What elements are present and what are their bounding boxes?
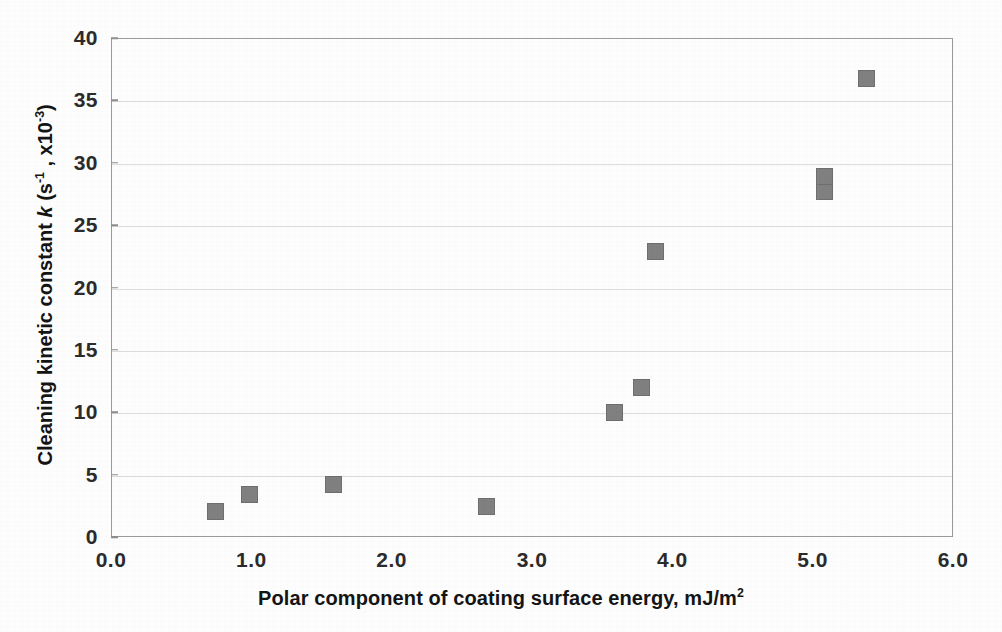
y-axis-title-units-close: ) [34,104,56,111]
y-axis-tick-mark [111,224,118,226]
y-axis-title-units-open: (s [34,183,56,206]
data-point-marker [816,168,833,185]
data-point-marker [325,476,342,493]
y-axis-title-symbol: k [34,206,56,217]
x-axis-tick-label: 3.0 [492,548,572,572]
x-axis-title-superscript: 2 [737,586,744,600]
gridline [112,476,952,477]
y-axis-title-exponent-1: -1 [33,172,47,183]
y-axis-tick-mark [111,349,118,351]
x-axis-tick-label: 5.0 [773,548,853,572]
x-axis-title-text: Polar component of coating surface energ… [258,587,737,609]
x-axis-title: Polar component of coating surface energ… [0,586,1002,610]
y-axis-tick-mark [111,100,118,102]
x-axis-tick-label: 6.0 [913,548,993,572]
gridline [112,289,952,290]
y-axis-title: Cleaning kinetic constant k (s-1 , x10-3… [33,25,57,545]
x-axis-tick-label: 1.0 [211,548,291,572]
x-axis-tick-label: 0.0 [71,548,151,572]
y-axis-tick-mark [111,287,118,289]
data-point-marker [647,243,664,260]
gridline [112,413,952,414]
y-axis-tick-mark [111,37,118,39]
x-axis-tick-label: 2.0 [352,548,432,572]
data-point-marker [633,379,650,396]
gridline [112,226,952,227]
data-point-marker [207,503,224,520]
y-axis-tick-mark [111,474,118,476]
figure-scatter-plot: 0510152025303540 0.01.02.03.04.05.06.0 P… [0,0,1002,632]
data-point-marker [816,183,833,200]
data-point-marker [241,486,258,503]
plot-area [111,38,953,537]
y-axis-tick-mark [111,412,118,414]
data-point-marker [478,498,495,515]
x-axis-tick-labels: 0.01.02.03.04.05.06.0 [0,548,1002,578]
y-axis-tick-mark [111,162,118,164]
y-axis-title-lead: Cleaning kinetic constant [34,218,56,466]
gridline [112,351,952,352]
y-axis-tick-mark [111,536,118,538]
gridline [112,101,952,102]
data-point-marker [858,70,875,87]
y-axis-title-exponent-2: -3 [33,111,47,122]
y-axis-title-units-mid: , x10 [34,122,56,172]
data-point-marker [606,404,623,421]
x-axis-tick-label: 4.0 [632,548,712,572]
gridline [112,164,952,165]
